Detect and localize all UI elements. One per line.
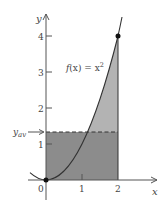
x-axis-label: x bbox=[152, 186, 158, 197]
x-tick-label-1: 1 bbox=[79, 184, 85, 194]
chart-svg: y x 4 3 2 1 0 1 2 yav f(x) = x2 bbox=[0, 0, 165, 207]
x-tick-label-0: 0 bbox=[38, 184, 44, 194]
y-tick-label-1: 1 bbox=[38, 140, 44, 150]
function-label: f(x) = x2 bbox=[65, 61, 104, 73]
y-tick-label-3: 3 bbox=[38, 68, 44, 78]
chart-container: y x 4 3 2 1 0 1 2 yav f(x) = x2 bbox=[0, 0, 165, 207]
x-tick-label-2: 2 bbox=[115, 184, 121, 194]
y-tick-label-2: 2 bbox=[38, 104, 44, 114]
point-2-4 bbox=[116, 34, 121, 39]
y-axis-label: y bbox=[35, 13, 42, 24]
y-tick-label-4: 4 bbox=[38, 32, 44, 42]
point-origin bbox=[44, 178, 49, 183]
yav-label: yav bbox=[12, 127, 26, 139]
